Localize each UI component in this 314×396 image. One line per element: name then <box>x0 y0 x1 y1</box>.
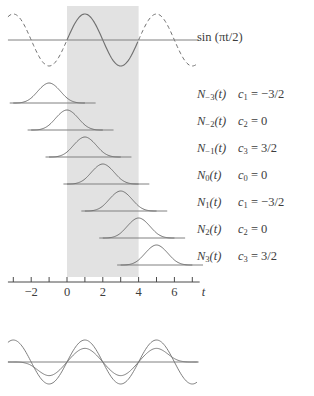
coefficient-label-5: c2 = 0 <box>238 223 267 236</box>
basis-name-label-2: N−1(t) <box>197 142 226 155</box>
t-axis-layer <box>8 277 200 282</box>
tick-label-6: 6 <box>164 285 184 300</box>
bspline-approximation-figure: sin (πt/2) N−3(t)c1 = −3/2N−2(t)c2 = 0N−… <box>0 0 314 396</box>
axis-variable-label: t <box>202 285 205 300</box>
basis-name-label-3: N0(t) <box>197 169 221 182</box>
tick-label-0: 0 <box>57 285 77 300</box>
sine-curve-label: sin (πt/2) <box>197 31 243 44</box>
basis-name-label-1: N−2(t) <box>197 115 226 128</box>
basis-name-label-5: N2(t) <box>197 223 221 236</box>
basis-name-label-6: N3(t) <box>197 250 221 263</box>
tick-label-4: 4 <box>129 285 149 300</box>
coefficient-label-0: c1 = −3/2 <box>238 88 284 101</box>
basis-name-label-4: N1(t) <box>197 196 221 209</box>
tick-label-2: 2 <box>93 285 113 300</box>
tick-label--2: −2 <box>21 285 41 300</box>
coefficient-label-2: c3 = 3/2 <box>238 142 277 155</box>
basis-name-label-0: N−3(t) <box>197 88 226 101</box>
coefficient-label-4: c1 = −3/2 <box>238 196 284 209</box>
coefficient-label-6: c3 = 3/2 <box>238 250 277 263</box>
coefficient-label-1: c2 = 0 <box>238 115 267 128</box>
coefficient-label-3: c0 = 0 <box>238 169 267 182</box>
bottom-composite-panel <box>8 340 199 384</box>
